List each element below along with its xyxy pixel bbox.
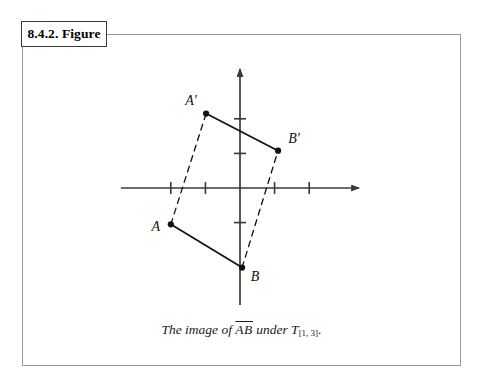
coordinate-plot-svg: ABA′B′ — [22, 34, 461, 366]
point-label-Aprime: A′ — [184, 93, 198, 108]
figure-caption: The image of AB under T[1, 3]. — [22, 322, 461, 338]
caption-trailing: . — [318, 322, 321, 337]
figure-root: 8.4.2. Figure ABA′B′ The image of AB und… — [0, 0, 481, 389]
caption-lead: The image of — [161, 322, 235, 337]
points-group — [168, 111, 281, 271]
point-Bprime — [275, 148, 281, 154]
caption-transform-subscript: [1, 3] — [299, 328, 319, 338]
point-label-Bprime: B′ — [288, 131, 301, 146]
figure-number-label: 8.4.2. Figure — [27, 26, 100, 42]
segment-AA' — [171, 114, 206, 225]
point-label-B: B — [251, 269, 260, 284]
segment-BB' — [242, 151, 278, 268]
caption-segment-ab: AB — [235, 322, 253, 337]
caption-transform-symbol: T — [291, 322, 299, 337]
point-A — [168, 221, 174, 227]
caption-middle: under — [253, 322, 291, 337]
point-B — [239, 264, 245, 270]
plot-area: ABA′B′ — [22, 34, 461, 366]
figure-number-tab: 8.4.2. Figure — [21, 21, 107, 47]
point-Aprime — [203, 111, 209, 117]
segment-AB — [171, 224, 242, 267]
point-label-A: A — [151, 219, 161, 234]
segments-group — [171, 114, 278, 268]
